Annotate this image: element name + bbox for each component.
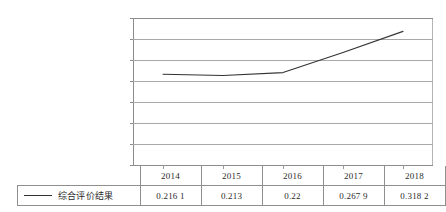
year-cell-0: 2014 xyxy=(140,166,201,186)
year-cell-2: 2016 xyxy=(262,166,323,186)
series-line-comprehensive-evaluation xyxy=(163,31,403,75)
table-row-values: 综合评价结果 0.216 1 0.213 0.22 0.267 9 0.318 … xyxy=(18,186,446,206)
plot-area: 00.050.10.150.20.250.30.35 xyxy=(133,18,433,165)
value-cell-3: 0.267 9 xyxy=(323,186,384,206)
year-cell-4: 2018 xyxy=(384,166,445,186)
value-cell-1: 0.213 xyxy=(201,186,262,206)
legend-label: 综合评价结果 xyxy=(58,189,113,202)
data-table: 2014 2015 2016 2017 2018 综合评价结果 0.216 1 … xyxy=(17,166,446,206)
value-cell-4: 0.318 2 xyxy=(384,186,445,206)
value-cell-2: 0.22 xyxy=(262,186,323,206)
year-cell-3: 2017 xyxy=(323,166,384,186)
year-cell-1: 2015 xyxy=(201,166,262,186)
value-cell-0: 0.216 1 xyxy=(140,186,201,206)
table-corner-blank xyxy=(18,166,141,186)
legend-entry: 综合评价结果 xyxy=(18,186,141,206)
legend-line-swatch-icon xyxy=(24,195,52,196)
series-line-svg xyxy=(133,18,433,165)
table-row-years: 2014 2015 2016 2017 2018 xyxy=(18,166,446,186)
